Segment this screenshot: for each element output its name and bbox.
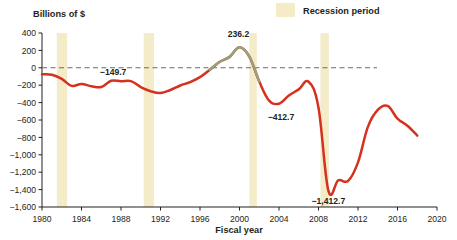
data-point-annotation: −412.7 <box>268 112 295 122</box>
y-tick-label: −1,000 <box>9 150 36 160</box>
y-axis-title: Billions of $ <box>33 9 85 19</box>
legend-recession-label: Recession period <box>303 6 380 16</box>
x-tick-label: 1980 <box>32 214 51 224</box>
x-tick-label: 1996 <box>190 214 209 224</box>
x-axis-title: Fiscal year <box>215 225 263 235</box>
recession-swatch-icon <box>276 3 295 17</box>
x-tick-label: 1984 <box>72 214 91 224</box>
y-tick-label: −600 <box>17 115 37 125</box>
data-point-annotation: −149.7 <box>100 67 127 77</box>
data-point-annotation: −1,412.7 <box>312 196 346 206</box>
x-tick-label: 2000 <box>230 214 249 224</box>
y-tick-label: −1,600 <box>9 202 36 212</box>
x-tick-label: 2016 <box>388 214 407 224</box>
y-tick-label: −200 <box>17 80 37 90</box>
x-axis-ticks: 1980198419881992199620002004200820122016… <box>32 207 446 224</box>
y-tick-label: 400 <box>22 28 37 38</box>
x-tick-label: 2008 <box>309 214 328 224</box>
x-tick-label: 1992 <box>151 214 170 224</box>
legend: Recession period <box>276 3 380 17</box>
data-annotations: −149.7236.2−412.7−1,412.7 <box>100 29 346 205</box>
x-tick-label: 2020 <box>427 214 446 224</box>
budget-deficit-line-chart: Billions of $ 4002000−200−400−600−800−1,… <box>0 0 457 240</box>
y-tick-label: −800 <box>17 133 37 143</box>
deficit-line <box>42 47 417 195</box>
recession-band <box>144 33 154 207</box>
y-axis-ticks: 4002000−200−400−600−800−1,000−1,200−1,40… <box>9 28 42 212</box>
y-tick-label: −400 <box>17 98 37 108</box>
x-tick-label: 2012 <box>348 214 367 224</box>
y-tick-label: 200 <box>22 46 37 56</box>
y-tick-label: −1,400 <box>9 185 36 195</box>
chart-container: Billions of $ 4002000−200−400−600−800−1,… <box>0 0 457 240</box>
x-tick-label: 1988 <box>111 214 130 224</box>
y-tick-label: −1,200 <box>9 167 36 177</box>
data-point-annotation: 236.2 <box>228 29 250 39</box>
y-tick-label: 0 <box>31 63 36 73</box>
recession-band <box>57 33 67 207</box>
x-tick-label: 2004 <box>269 214 288 224</box>
